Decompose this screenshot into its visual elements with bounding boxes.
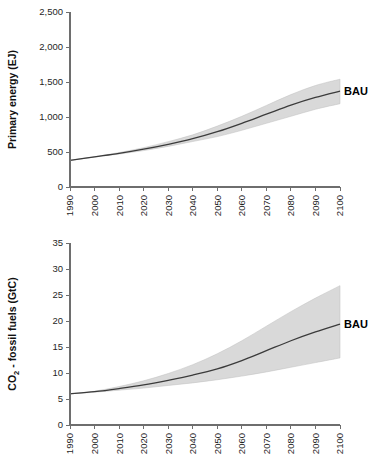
x-tick-label: 2030 [163,433,174,454]
x-tick-label: 2080 [285,433,296,454]
x-tick-label: 2000 [89,195,100,216]
x-tick-label: 2040 [187,433,198,454]
y-tick-label: 2,500 [39,6,63,17]
co2-fossil-fuels-plot: BAU0510152025303519902000201020202030204… [0,233,382,466]
y-tick-label: 10 [52,367,63,378]
y-tick-label: 0 [58,181,63,192]
x-tick-label: 2060 [236,433,247,454]
x-tick-label: 2030 [163,195,174,216]
x-tick-label: 2060 [236,195,247,216]
y-tick-label: 0 [58,419,63,430]
x-tick-label: 2050 [212,195,223,216]
series-label-bau: BAU [344,318,368,330]
x-tick-label: 2010 [114,433,125,454]
x-tick-label: 2020 [138,195,149,216]
uncertainty-band-bau [70,286,340,394]
x-tick-label: 2100 [334,195,345,216]
x-tick-label: 1990 [64,433,75,454]
y-tick-label: 30 [52,263,63,274]
y-tick-label: 25 [52,289,63,300]
x-tick-label: 2070 [261,195,272,216]
series-label-bau: BAU [344,85,368,97]
y-tick-label: 2,000 [39,41,63,52]
y-tick-label: 20 [52,315,63,326]
y-tick-label: 500 [47,146,63,157]
uncertainty-band-bau [70,79,340,160]
chart-co2-fossil-fuels: BAU0510152025303519902000201020202030204… [0,233,382,466]
y-tick-label: 1,000 [39,111,63,122]
x-tick-label: 2050 [212,433,223,454]
x-tick-label: 2070 [261,433,272,454]
x-tick-label: 2010 [114,195,125,216]
x-tick-label: 2080 [285,195,296,216]
x-tick-label: 2090 [310,433,321,454]
chart-primary-energy: BAU05001,0001,5002,0002,5001990200020102… [0,0,382,233]
x-tick-label: 2090 [310,195,321,216]
y-tick-label: 35 [52,237,63,248]
x-tick-label: 1990 [64,195,75,216]
y-tick-label: 1,500 [39,76,63,87]
y-axis-title: CO2 - fossil fuels (GtC) [6,277,21,390]
x-tick-label: 2000 [89,433,100,454]
y-tick-label: 15 [52,341,63,352]
y-tick-label: 5 [58,393,63,404]
x-tick-label: 2020 [138,433,149,454]
x-tick-label: 2100 [334,433,345,454]
y-axis-title: Primary energy (EJ) [6,50,18,149]
primary-energy-plot: BAU05001,0001,5002,0002,5001990200020102… [0,0,382,233]
x-tick-label: 2040 [187,195,198,216]
